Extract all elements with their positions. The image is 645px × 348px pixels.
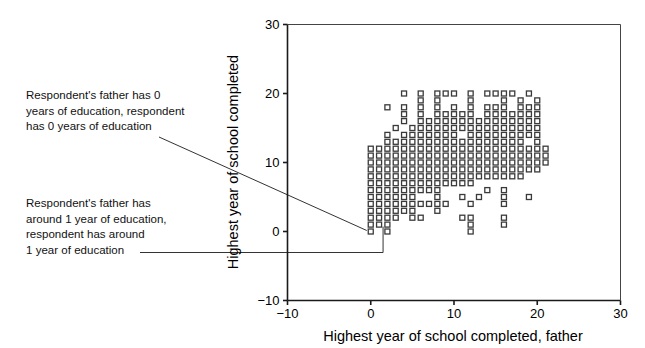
data-point-marker: [485, 132, 490, 137]
data-point-marker: [485, 126, 490, 131]
data-point-marker: [418, 146, 423, 151]
data-point-marker: [368, 201, 373, 206]
data-point-marker: [510, 160, 515, 165]
data-point-marker: [435, 119, 440, 124]
data-point-marker: [427, 201, 432, 206]
data-point-marker: [543, 146, 548, 151]
annotation-leader-lines: [140, 137, 383, 253]
data-point-marker: [460, 126, 465, 131]
data-point-marker: [510, 91, 515, 96]
data-point-marker: [393, 153, 398, 158]
data-point-marker: [393, 215, 398, 220]
data-point-marker: [418, 167, 423, 172]
data-point-marker: [535, 167, 540, 172]
data-point-marker: [368, 153, 373, 158]
data-point-marker: [468, 201, 473, 206]
data-point-marker: [418, 112, 423, 117]
data-point-marker: [526, 195, 531, 200]
data-point-marker: [526, 105, 531, 110]
data-point-marker: [418, 119, 423, 124]
data-point-marker: [518, 119, 523, 124]
data-point-marker: [385, 146, 390, 151]
data-point-marker: [377, 181, 382, 186]
data-point-marker: [501, 146, 506, 151]
data-point-marker: [468, 160, 473, 165]
data-point-marker: [418, 98, 423, 103]
data-point-marker: [385, 132, 390, 137]
data-point-marker: [418, 160, 423, 165]
data-point-marker: [476, 160, 481, 165]
data-point-marker: [443, 181, 448, 186]
data-point-marker: [402, 167, 407, 172]
data-point-marker: [452, 119, 457, 124]
data-point-marker: [402, 146, 407, 151]
data-point-marker: [493, 105, 498, 110]
data-point-marker: [410, 126, 415, 131]
data-point-marker: [385, 153, 390, 158]
data-point-marker: [501, 195, 506, 200]
data-point-marker: [418, 188, 423, 193]
data-point-marker: [460, 160, 465, 165]
data-point-marker: [485, 105, 490, 110]
data-point-marker: [427, 174, 432, 179]
data-point-marker: [377, 153, 382, 158]
data-point-marker: [493, 146, 498, 151]
data-point-marker: [510, 139, 515, 144]
data-point-marker: [485, 188, 490, 193]
data-point-marker: [518, 153, 523, 158]
data-point-marker: [510, 167, 515, 172]
x-axis-title: Highest year of school completed, father: [323, 328, 583, 344]
data-point-marker: [402, 188, 407, 193]
data-point-marker: [443, 126, 448, 131]
data-point-marker: [418, 153, 423, 158]
data-point-marker: [452, 167, 457, 172]
data-point-marker: [468, 215, 473, 220]
data-point-marker: [435, 201, 440, 206]
data-point-marker: [460, 195, 465, 200]
data-point-marker: [535, 98, 540, 103]
data-point-marker: [410, 188, 415, 193]
data-point-marker: [393, 181, 398, 186]
data-point-marker: [427, 139, 432, 144]
data-point-marker: [485, 160, 490, 165]
data-point-marker: [535, 139, 540, 144]
data-point-marker: [485, 174, 490, 179]
data-points: [368, 91, 548, 234]
plot-svg: −100102030−100102030 Highest year of sch…: [0, 0, 645, 348]
data-point-marker: [501, 112, 506, 117]
data-point-marker: [385, 160, 390, 165]
data-point-marker: [427, 132, 432, 137]
data-point-marker: [410, 160, 415, 165]
data-point-marker: [535, 153, 540, 158]
data-point-marker: [435, 160, 440, 165]
data-point-marker: [493, 139, 498, 144]
data-point-marker: [385, 105, 390, 110]
data-point-marker: [476, 132, 481, 137]
data-point-marker: [418, 174, 423, 179]
data-point-marker: [452, 139, 457, 144]
data-point-marker: [393, 167, 398, 172]
data-point-marker: [393, 146, 398, 151]
data-point-marker: [410, 201, 415, 206]
data-point-marker: [476, 153, 481, 158]
data-point-marker: [377, 208, 382, 213]
data-point-marker: [501, 126, 506, 131]
data-point-marker: [427, 146, 432, 151]
data-point-marker: [468, 146, 473, 151]
data-point-marker: [385, 215, 390, 220]
x-tick-label: 30: [613, 306, 627, 321]
data-point-marker: [368, 229, 373, 234]
data-point-marker: [501, 201, 506, 206]
data-point-marker: [368, 160, 373, 165]
data-point-marker: [476, 126, 481, 131]
data-point-marker: [526, 119, 531, 124]
data-point-marker: [526, 91, 531, 96]
data-point-marker: [452, 153, 457, 158]
data-point-marker: [493, 153, 498, 158]
data-point-marker: [468, 174, 473, 179]
data-point-marker: [393, 188, 398, 193]
data-point-marker: [435, 146, 440, 151]
data-point-marker: [427, 188, 432, 193]
data-point-marker: [510, 153, 515, 158]
data-point-marker: [418, 132, 423, 137]
